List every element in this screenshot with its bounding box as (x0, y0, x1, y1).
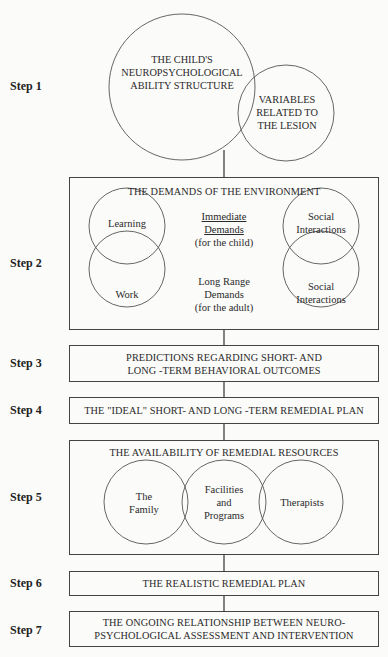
step-6-label: Step 6 (10, 576, 42, 591)
predictions-line-1: PREDICTIONS REGARDING SHORT- AND (70, 351, 378, 364)
predictions-line-2: LONG -TERM BEHAVIORAL OUTCOMES (70, 364, 378, 377)
long-range-line-2: Demands (174, 288, 274, 301)
relationship-line-2: PSYCHOLOGICAL ASSESSMENT AND INTERVENTIO… (70, 629, 378, 642)
lesion-line-1: VARIABLES (246, 93, 328, 106)
facilities-line-3: Programs (190, 509, 258, 522)
social-child-line-2: Interactions (281, 223, 361, 236)
family-line-1: The (116, 490, 172, 503)
immediate-line-1: Immediate (174, 210, 274, 223)
long-range-line-3: (for the adult) (174, 301, 274, 314)
step-5-label: Step 5 (10, 490, 42, 505)
step-2-label: Step 2 (10, 256, 42, 271)
lesion-line-2: RELATED TO (246, 106, 328, 119)
ideal-plan-text: THE "IDEAL" SHORT- AND LONG -TERM REMEDI… (70, 404, 378, 417)
step-4-label: Step 4 (10, 403, 42, 418)
social-adult-line-1: Social (281, 280, 361, 293)
resources-title: THE AVAILABILITY OF REMEDIAL RESOURCES (70, 446, 378, 459)
therapists-label: Therapists (264, 496, 340, 509)
long-range-line-1: Long Range (174, 275, 274, 288)
long-range-demands-text: Long Range Demands (for the adult) (174, 275, 274, 314)
lesion-line-3: THE LESION (246, 119, 328, 132)
social-adult-line-2: Interactions (281, 293, 361, 306)
family-line-2: Family (116, 503, 172, 516)
immediate-line-3: (for the child) (174, 236, 274, 249)
social-adult-label: Social Interactions (281, 280, 361, 306)
facilities-label: Facilities and Programs (190, 483, 258, 522)
learning-label: Learning (92, 217, 162, 230)
step-4-ideal-plan-box: THE "IDEAL" SHORT- AND LONG -TERM REMEDI… (69, 397, 379, 424)
ability-line-1: THE CHILD'S (112, 53, 252, 66)
ability-line-2: NEUROPSYCHOLOGICAL (112, 66, 252, 79)
step-1-label: Step 1 (10, 79, 42, 94)
ability-structure-text: THE CHILD'S NEUROPSYCHOLOGICAL ABILITY S… (112, 53, 252, 92)
step-7-relationship-box: THE ONGOING RELATIONSHIP BETWEEN NEURO- … (69, 611, 379, 647)
social-child-line-1: Social (281, 210, 361, 223)
social-child-label: Social Interactions (281, 210, 361, 236)
family-label: The Family (116, 490, 172, 516)
immediate-demands-text: Immediate Demands (for the child) (174, 210, 274, 249)
environment-title: THE DEMANDS OF THE ENVIRONMENT (70, 185, 378, 198)
step-7-label: Step 7 (10, 623, 42, 638)
predictions-text: PREDICTIONS REGARDING SHORT- AND LONG -T… (70, 351, 378, 377)
immediate-line-2: Demands (174, 223, 274, 236)
step-6-realistic-plan-box: THE REALISTIC REMEDIAL PLAN (69, 571, 379, 596)
lesion-variables-text: VARIABLES RELATED TO THE LESION (246, 93, 328, 132)
step-3-predictions-box: PREDICTIONS REGARDING SHORT- AND LONG -T… (69, 345, 379, 382)
relationship-line-1: THE ONGOING RELATIONSHIP BETWEEN NEURO- (70, 616, 378, 629)
realistic-plan-text: THE REALISTIC REMEDIAL PLAN (70, 577, 378, 590)
work-label: Work (92, 288, 162, 301)
facilities-line-1: Facilities (190, 483, 258, 496)
ability-line-3: ABILITY STRUCTURE (112, 79, 252, 92)
step-3-label: Step 3 (10, 356, 42, 371)
relationship-text: THE ONGOING RELATIONSHIP BETWEEN NEURO- … (70, 616, 378, 642)
facilities-line-2: and (190, 496, 258, 509)
